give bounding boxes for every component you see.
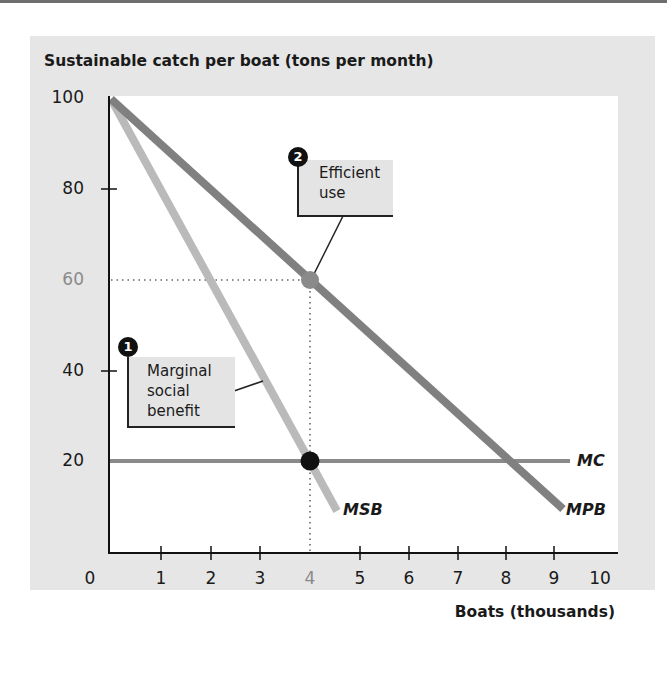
y-tick-label-80: 80 [44, 178, 84, 198]
x-tick-label-10: 10 [585, 568, 615, 588]
y-tick-label-100: 100 [44, 87, 84, 107]
efficient-point [301, 271, 319, 289]
x-tick-label-3: 3 [245, 568, 275, 588]
callout-2-line-2: use [319, 183, 393, 203]
leader-line-1 [234, 381, 263, 391]
callout-efficient-use: Efficient use [297, 160, 393, 217]
x-tick-label-6: 6 [394, 568, 424, 588]
msb-label: MSB [343, 500, 383, 519]
x-tick-label-8: 8 [491, 568, 521, 588]
callout-1-line-2: social [147, 381, 235, 401]
x-tick-label-9: 9 [539, 568, 569, 588]
y-tick-label-20: 20 [44, 450, 84, 470]
callout-1-line-3: benefit [147, 401, 235, 421]
x-tick-label-5: 5 [345, 568, 375, 588]
callout-2-line-1: Efficient [319, 163, 393, 183]
mc-label: MC [577, 451, 605, 470]
x-axis-title: Boats (thousands) [455, 603, 615, 621]
x-tick-label-4: 4 [295, 568, 325, 588]
callout-marginal-social-benefit: Marginal social benefit [127, 357, 235, 428]
badge-2: 2 [288, 147, 308, 167]
x-tick-label-7: 7 [443, 568, 473, 588]
leader-line-2 [313, 216, 343, 276]
y-tick-label-60: 60 [44, 269, 84, 289]
x-tick-label-1: 1 [146, 568, 176, 588]
callout-1-line-1: Marginal [147, 361, 235, 381]
badge-1: 1 [118, 337, 138, 357]
x-tick-label-0: 0 [75, 568, 105, 588]
msb-mc-intersection-point [301, 452, 320, 471]
y-tick-label-40: 40 [44, 360, 84, 380]
mpb-label: MPB [566, 500, 606, 519]
x-tick-label-2: 2 [196, 568, 226, 588]
